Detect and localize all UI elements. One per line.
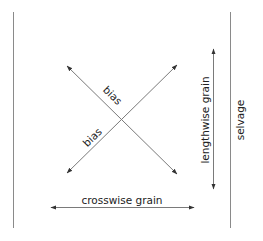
crosswise-grain-label: crosswise grain (82, 194, 163, 206)
selvage-label: selvage (234, 100, 246, 141)
bias-arrow-descending (67, 66, 177, 174)
lengthwise-grain-label: lengthwise grain (199, 76, 211, 163)
fabric-grain-diagram: bias bias lengthwise grain selvage cross… (0, 0, 263, 241)
bias-label-lower: bias (80, 125, 104, 149)
bias-arrow-ascending (67, 65, 177, 173)
